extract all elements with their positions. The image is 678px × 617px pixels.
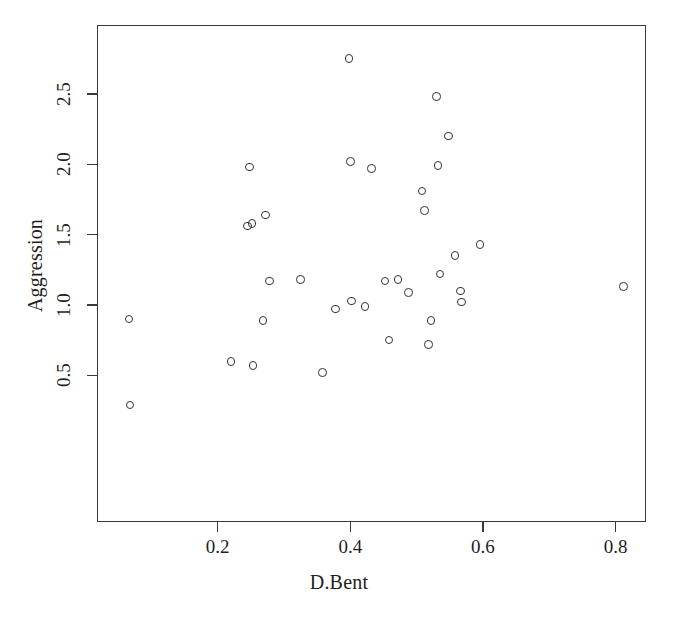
y-tick-mark [87, 304, 97, 305]
y-tick-label: 0.5 [53, 355, 75, 395]
y-tick-mark [87, 93, 97, 94]
y-tick-label: 1.0 [53, 285, 75, 325]
y-tick-label: 1.5 [53, 215, 75, 255]
y-tick-mark [87, 164, 97, 165]
y-tick-mark [87, 375, 97, 376]
x-tick-label: 0.4 [320, 536, 380, 558]
y-tick-mark [87, 234, 97, 235]
x-tick-label: 0.6 [453, 536, 513, 558]
x-tick-mark [217, 522, 218, 532]
x-tick-mark [350, 522, 351, 532]
y-axis-title: Aggression [24, 176, 47, 356]
y-tick-label: 2.0 [53, 144, 75, 184]
x-tick-mark [615, 522, 616, 532]
x-tick-mark [482, 522, 483, 532]
x-tick-label: 0.8 [586, 536, 646, 558]
y-tick-label: 2.5 [53, 74, 75, 114]
scatter-plot-figure: 0.20.40.60.8 0.51.01.52.02.5 D.Bent Aggr… [0, 0, 678, 617]
x-axis-title: D.Bent [0, 571, 678, 594]
plot-frame [97, 25, 646, 522]
x-tick-label: 0.2 [188, 536, 248, 558]
